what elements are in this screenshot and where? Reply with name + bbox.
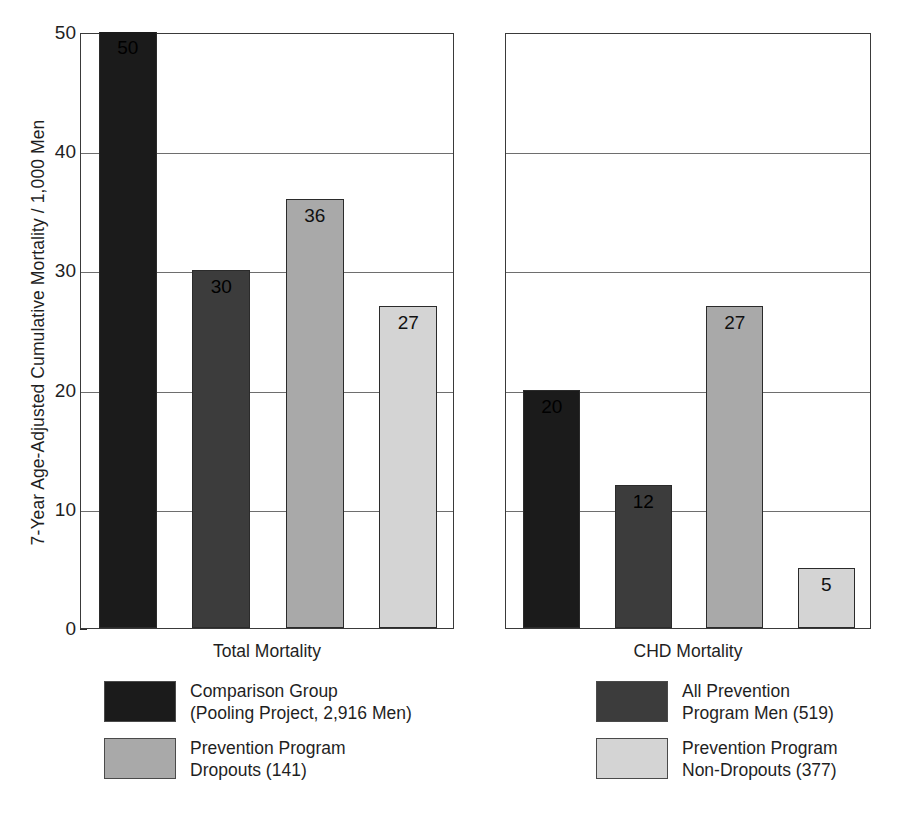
category-label-total-mortality: Total Mortality xyxy=(80,641,454,662)
bar: 27 xyxy=(706,306,763,628)
bar-value-label: 5 xyxy=(799,574,854,596)
bar: 12 xyxy=(615,485,672,628)
legend-swatch xyxy=(596,681,668,722)
y-tick-label: 20 xyxy=(36,380,76,402)
bar-group-chd-mortality: 2012275 xyxy=(506,34,870,628)
bar-chart-figure: 7-Year Age-Adjusted Cumulative Mortality… xyxy=(0,0,899,827)
bar-group-total-mortality: 50303627 xyxy=(81,34,453,628)
bar: 27 xyxy=(379,306,437,628)
legend-label: All Prevention Program Men (519) xyxy=(682,681,834,724)
legend-label: Prevention Program Dropouts (141) xyxy=(190,738,346,781)
panel-chd-mortality: 2012275 xyxy=(505,33,871,629)
legend-swatch xyxy=(104,681,176,722)
bar-value-label: 27 xyxy=(707,312,762,334)
bar-value-label: 30 xyxy=(193,276,249,298)
y-tick-label: 30 xyxy=(36,260,76,282)
bar: 30 xyxy=(192,270,250,628)
legend-item: All Prevention Program Men (519) xyxy=(596,681,838,724)
bar-value-label: 12 xyxy=(616,491,671,513)
y-tick-mark xyxy=(80,629,87,630)
legend-item: Prevention Program Non-Dropouts (377) xyxy=(596,738,838,781)
legend-swatch xyxy=(596,738,668,779)
bar: 20 xyxy=(523,390,580,628)
y-tick-label: 40 xyxy=(36,141,76,163)
bar: 5 xyxy=(798,568,855,628)
bar-value-label: 27 xyxy=(380,312,436,334)
bar-value-label: 36 xyxy=(287,205,343,227)
category-label-chd-mortality: CHD Mortality xyxy=(505,641,871,662)
legend-label: Prevention Program Non-Dropouts (377) xyxy=(682,738,838,781)
y-tick-label: 10 xyxy=(36,499,76,521)
legend-left: Comparison Group (Pooling Project, 2,916… xyxy=(104,681,412,795)
y-tick-label: 50 xyxy=(36,22,76,44)
bar-value-label: 50 xyxy=(100,37,156,59)
panel-total-mortality: 50303627 xyxy=(80,33,454,629)
legend-right: All Prevention Program Men (519)Preventi… xyxy=(596,681,838,795)
legend-item: Prevention Program Dropouts (141) xyxy=(104,738,412,781)
y-tick-label: 0 xyxy=(36,618,76,640)
bar-value-label: 20 xyxy=(524,396,579,418)
legend-item: Comparison Group (Pooling Project, 2,916… xyxy=(104,681,412,724)
legend-label: Comparison Group (Pooling Project, 2,916… xyxy=(190,681,412,724)
bar: 36 xyxy=(286,199,344,628)
y-axis-ticks: 50403020100 xyxy=(36,33,76,629)
bar: 50 xyxy=(99,32,157,628)
legend-swatch xyxy=(104,738,176,779)
